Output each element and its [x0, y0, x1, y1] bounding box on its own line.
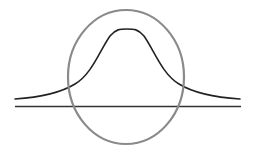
bell-curve-diagram	[0, 0, 254, 155]
background	[0, 0, 254, 155]
